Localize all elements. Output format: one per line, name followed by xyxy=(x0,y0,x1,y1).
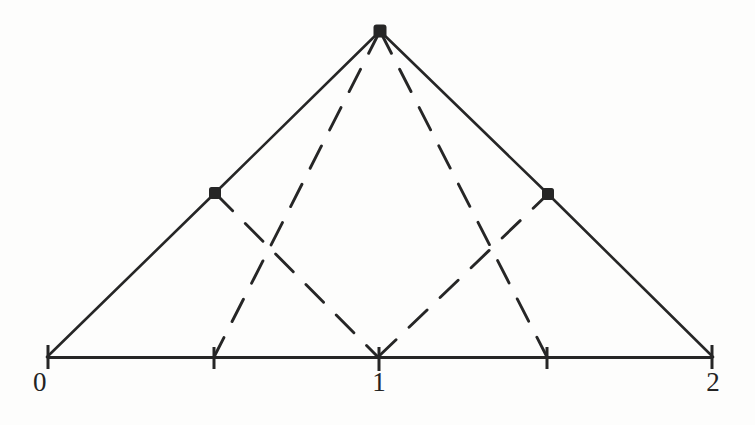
dashed-hat-left-line xyxy=(214,31,380,357)
plot-svg xyxy=(0,0,755,425)
dashed-descend-right-line xyxy=(378,194,548,357)
axis-label-0: 0 xyxy=(33,369,47,396)
node-markers xyxy=(209,25,554,201)
node-marker-left xyxy=(209,187,221,199)
dashed-descend-left-line xyxy=(215,193,378,357)
axis-label-2: 2 xyxy=(706,369,720,396)
dashed-hat-right-line xyxy=(380,31,547,357)
solid-hat-function-line xyxy=(47,31,713,357)
node-marker-right xyxy=(542,188,554,200)
figure-canvas: 0 1 2 xyxy=(0,0,755,425)
axis-label-1: 1 xyxy=(372,369,386,396)
node-marker-apex xyxy=(374,25,387,38)
